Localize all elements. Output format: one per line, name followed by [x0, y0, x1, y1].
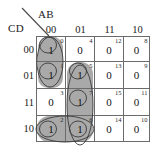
one-marker-6	[70, 121, 87, 137]
one-marker-1	[40, 63, 57, 79]
group-outlines	[0, 0, 151, 151]
one-marker-2	[40, 121, 57, 137]
kmap-root: AB CD 00 01 11 10 00 01 11 10 0 1 4 0 12…	[0, 0, 151, 151]
group-ellipse-2-6	[36, 116, 94, 142]
group-ellipse-0-1	[37, 37, 63, 87]
one-marker-7	[70, 90, 87, 106]
one-marker-0	[40, 37, 57, 53]
